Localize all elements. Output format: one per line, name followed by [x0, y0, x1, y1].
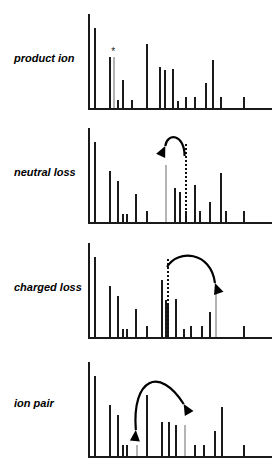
annotation-arrow	[0, 0, 280, 476]
spectrum-figure: product ion*neutral losscharged lossion …	[0, 0, 280, 476]
